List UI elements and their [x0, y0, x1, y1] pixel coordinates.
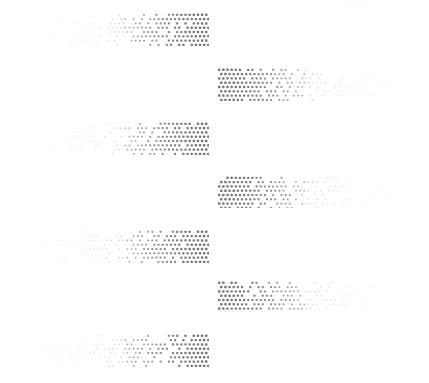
halftone-band-graphic [10, 333, 209, 367]
faint-header-text: -------- --- [345, 1, 380, 8]
halftone-band-graphic [10, 12, 209, 46]
halftone-band-graphic [218, 175, 425, 208]
halftone-band-graphic [10, 229, 209, 263]
halftone-band [218, 280, 425, 312]
document-page: -------- --- [0, 0, 429, 383]
halftone-band-graphic [10, 121, 209, 155]
halftone-band [218, 67, 425, 101]
halftone-band-graphic [218, 280, 425, 312]
halftone-band [10, 229, 209, 263]
halftone-band [10, 12, 209, 46]
halftone-band [10, 333, 209, 367]
halftone-band-graphic [218, 67, 425, 101]
halftone-band [10, 121, 209, 155]
halftone-band [218, 175, 425, 208]
